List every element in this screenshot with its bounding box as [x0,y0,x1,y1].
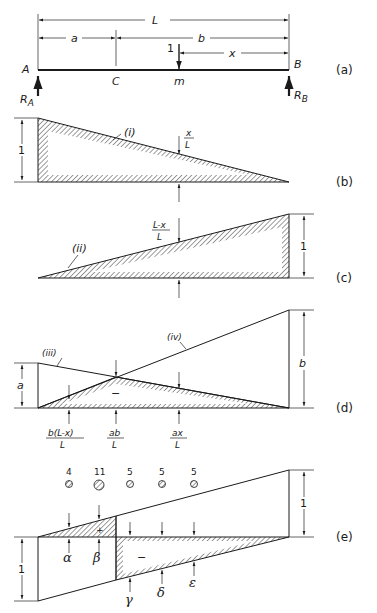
line-iii [38,363,289,408]
label-m: m [174,75,185,88]
ordinate-2-denominator: L [112,440,117,450]
ordinate-numerator: x [185,128,192,138]
label-C: C [112,75,120,88]
sign-minus: − [111,387,120,400]
leader-iv [180,342,186,349]
panel-label-d: (d) [336,401,353,415]
panel-e-influence-shear: 4 11 5 5 5 [14,467,353,607]
load-circle-icon [94,480,104,490]
label-RB: RB [294,89,308,104]
label-RA: RA [20,93,34,108]
load-2: 11 [94,467,105,490]
label-height-left: 1 [18,563,25,576]
load-value: 5 [159,467,165,477]
sign-plus: + [96,525,104,535]
ordinate-denominator: L [157,232,162,242]
load-5: 5 [191,467,198,488]
load-circle-icon [66,481,73,488]
ordinate-delta: δ [157,585,165,600]
load-value: 5 [191,467,197,477]
label-A: A [21,63,30,76]
label-height-a: a [17,379,24,392]
ordinate-3-denominator: L [175,440,180,450]
label-b: b [198,32,205,45]
panel-label-a: (a) [336,63,353,77]
load-value: 11 [94,467,105,477]
label-height-right: 1 [300,497,307,510]
label-curve-i: (i) [124,126,136,139]
label-x: x [228,47,236,60]
load-1: 4 [66,467,73,488]
load-4: 5 [159,467,166,488]
load-value: 4 [66,467,72,477]
label-a: a [71,32,78,45]
panel-a-beam: L a b x 1 A B C m RA RB (a) [20,14,353,108]
lower-line-left [38,580,116,601]
influence-outline-RA [38,118,289,182]
label-height-1: 1 [300,240,307,253]
influence-line-diagram: L a b x 1 A B C m RA RB (a) [0,0,377,613]
load-value: 5 [127,467,133,477]
ordinate-3-numerator: ax [172,428,184,438]
upper-line-right [116,470,289,516]
leader-iii [57,358,62,366]
load-circle-icon [127,481,134,488]
label-unit-load: 1 [167,42,174,55]
ordinate-numerator: L-x [153,220,167,230]
label-curve-ii: (ii) [72,242,87,255]
leader-ii [68,255,78,268]
ordinate-1-denominator: L [60,440,65,450]
panel-c-influence-RB: 1 (ii) L-x L (c) [38,214,352,298]
label-L: L [152,14,158,27]
ordinate-alpha: α [63,550,72,565]
ordinate-epsilon: ε [189,575,196,590]
line-iv [38,310,289,408]
load-circle-icon [159,481,166,488]
panel-label-c: (c) [336,271,352,285]
panel-label-b: (b) [336,175,353,189]
label-height-b: b [299,357,306,370]
panel-label-e: (e) [336,530,353,544]
panel-d-influence-moment: a b (iii) (iv) − b(L-x) L ab L ax L (d) [14,310,353,450]
ordinate-2-numerator: ab [109,428,121,438]
load-3: 5 [127,467,134,488]
ordinate-denominator: L [185,140,190,150]
load-circle-icon [191,481,198,488]
label-curve-iv: (iv) [167,332,182,342]
ordinate-gamma: γ [125,592,133,607]
sign-minus: − [137,551,146,564]
ordinate-1-numerator: b(L-x) [48,428,74,438]
label-height-1: 1 [18,144,25,157]
panel-b-influence-RA: 1 (i) x L (b) [14,118,353,202]
label-curve-iii: (iii) [42,348,57,358]
ordinate-beta: β [92,550,101,565]
label-B: B [294,58,302,71]
